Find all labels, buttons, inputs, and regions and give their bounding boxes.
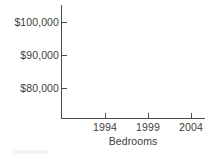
scan-artifact — [14, 150, 48, 154]
x-tick-mark — [105, 113, 106, 118]
x-axis-title: Bedrooms — [61, 135, 205, 147]
y-tick-label: $80,000 — [1, 82, 59, 94]
chart-figure: $100,000 $90,000 $80,000 1994 1999 2004 … — [0, 0, 209, 159]
x-tick-label: 1994 — [85, 121, 125, 133]
x-tick-mark — [148, 113, 149, 118]
y-tick-label: $90,000 — [1, 49, 59, 61]
y-tick-mark — [62, 88, 67, 89]
x-tick-label: 2004 — [171, 121, 209, 133]
y-tick-mark — [62, 55, 67, 56]
plot-area — [62, 5, 205, 118]
x-tick-mark — [191, 113, 192, 118]
y-tick-mark — [62, 22, 67, 23]
x-tick-label: 1999 — [128, 121, 168, 133]
x-axis-line — [61, 118, 205, 119]
y-tick-label: $100,000 — [1, 16, 59, 28]
